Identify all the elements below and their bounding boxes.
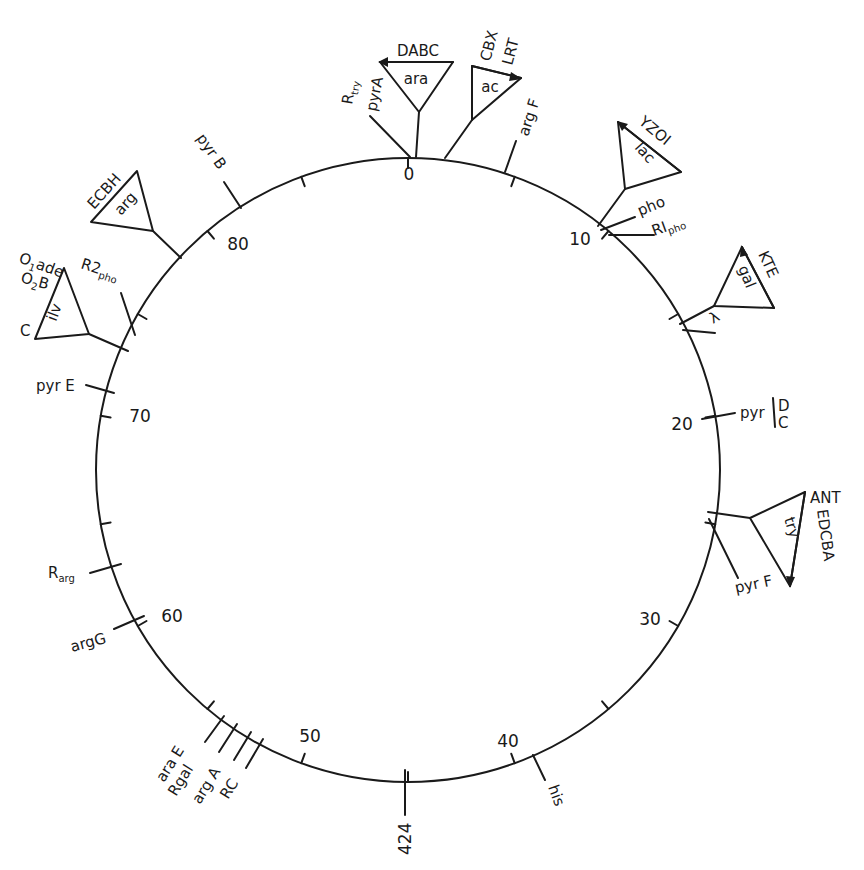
ac-genes-bottom: LRT	[498, 36, 523, 67]
operon-gal: gal KTE	[680, 245, 782, 324]
operon-ilv: ilv O1ade O2B C	[16, 249, 128, 351]
tick-80	[208, 231, 214, 239]
locus-pyrB: pyr B	[193, 130, 241, 208]
tick-5	[511, 177, 514, 186]
svg-text:arg F: arg F	[515, 97, 544, 139]
chromosome-circle	[96, 158, 720, 782]
svg-text:RIpho: RIpho	[649, 211, 687, 241]
genetic-map: 0 10 20 30 40 50 60 70 80 424 Rtry pyrA …	[0, 0, 864, 870]
locus-rc: RC	[216, 739, 263, 802]
scale-label-80: 80	[227, 234, 249, 254]
scale-label-50: 50	[299, 726, 321, 746]
svg-text:argG: argG	[68, 629, 108, 656]
locus-pyrE: pyr E	[36, 377, 114, 395]
locus-r-try: Rtry	[338, 78, 362, 106]
locus-r-arg: Rarg	[48, 564, 121, 584]
ilv-c: C	[20, 322, 30, 340]
tick-15	[670, 314, 679, 319]
ac-genes-top: CBX	[476, 28, 501, 63]
svg-text:D: D	[778, 397, 790, 415]
scale-label-10: 10	[569, 229, 591, 249]
tick-30	[670, 621, 679, 626]
svg-text:R2pho: R2pho	[78, 255, 121, 286]
tick-65	[101, 522, 111, 524]
svg-text:λ: λ	[706, 307, 723, 327]
scale-label-0: 0	[404, 164, 415, 184]
tick-40	[511, 754, 514, 763]
scale-labels: 0 10 20 30 40 50 60 70 80	[129, 164, 693, 751]
tick-70	[101, 416, 111, 418]
gal-genes: KTE	[754, 248, 782, 280]
tick-55	[208, 701, 214, 709]
svg-text:pyr F: pyr F	[733, 571, 774, 597]
try-genes-top: ANT	[810, 489, 841, 507]
gal-arrowhead-icon	[740, 245, 748, 257]
svg-text:Rtry: Rtry	[338, 78, 362, 106]
locus-argF: arg F	[505, 97, 544, 172]
svg-text:Rarg: Rarg	[48, 564, 75, 584]
tick-10	[602, 231, 608, 239]
svg-text:pyrA: pyrA	[362, 74, 387, 113]
operon-ac: ac CBX LRT	[445, 28, 523, 158]
tick-75	[138, 314, 147, 319]
scale-ticks	[101, 158, 716, 782]
svg-text:pho: pho	[635, 192, 668, 219]
ac-label: ac	[481, 78, 498, 96]
scale-label-40: 40	[497, 731, 519, 751]
tick-60	[138, 621, 147, 626]
tick-35	[602, 701, 608, 709]
locus-argG: argG	[68, 616, 144, 656]
operon-arg: arg ECBH	[84, 170, 181, 258]
marker-424-label: 424	[395, 823, 415, 855]
locus-his: his	[533, 755, 569, 809]
svg-text:pyr E: pyr E	[36, 377, 75, 395]
scale-label-60: 60	[161, 606, 183, 626]
try-genes-side: EDCBA	[813, 508, 838, 563]
scale-label-70: 70	[129, 406, 151, 426]
svg-text:pyr: pyr	[740, 404, 765, 422]
scale-label-20: 20	[671, 414, 693, 434]
ara-label: ara	[404, 70, 429, 88]
ara-genes: DABC	[397, 42, 439, 60]
tick-85	[301, 177, 304, 186]
operon-try: try ANT EDCBA	[708, 489, 841, 588]
tick-50	[301, 754, 304, 763]
svg-text:his: his	[544, 782, 568, 809]
svg-text:C: C	[778, 414, 788, 432]
operon-ara: ara DABC	[378, 42, 453, 157]
locus-r2-pho: R2pho	[78, 255, 135, 335]
svg-text:pyr B: pyr B	[193, 130, 230, 173]
scale-label-30: 30	[639, 609, 661, 629]
